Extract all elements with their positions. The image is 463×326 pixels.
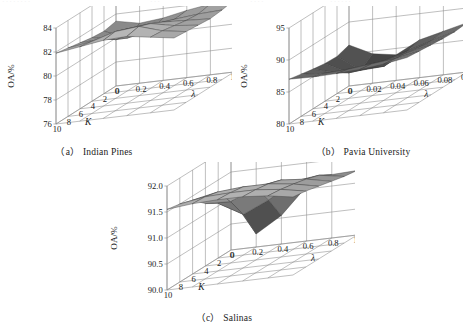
surface-patch — [431, 23, 463, 41]
surface-patch — [167, 197, 205, 210]
z-tick-label: 84 — [43, 23, 52, 33]
floor-gridline — [68, 102, 186, 116]
k-tick-label: 10 — [286, 124, 295, 134]
wall-gridline — [116, 48, 232, 62]
lambda-tick-label: 1.0 — [353, 235, 355, 245]
z-tick-label: 80 — [276, 119, 285, 129]
k-axis-title: K — [317, 117, 325, 127]
z-tick-label: 85 — [276, 87, 285, 97]
plot-canvas-pavia-university: 80859095108642000.020.040.060.080.10KλOA… — [231, 6, 463, 158]
floor-gridline — [301, 102, 419, 116]
surface-mesh — [56, 6, 232, 53]
z-tick-label: 91.0 — [148, 233, 163, 243]
lambda-tick-label: 0.6 — [183, 78, 194, 88]
surface-mesh — [167, 171, 355, 234]
k-tick-label: 6 — [312, 109, 317, 119]
floor-gridline — [180, 267, 306, 282]
lambda-tick-label: 0.8 — [328, 238, 339, 248]
wall-gridline — [167, 162, 231, 186]
lambda-tick-label: 0.6 — [303, 241, 314, 251]
k-tick-label: 2 — [103, 94, 107, 104]
k-tick-label: 4 — [91, 101, 96, 111]
k-tick-label: 4 — [204, 266, 209, 276]
surface-plot-pavia-university: 80859095108642000.020.040.060.080.10KλOA… — [231, 6, 463, 158]
floor-gridline — [80, 95, 198, 109]
floor-gridline — [193, 259, 319, 274]
oa-axis-title: OA/% — [6, 64, 16, 88]
z-tick-label: 95 — [276, 23, 285, 33]
z-tick-label: 90.5 — [148, 259, 163, 269]
z-tick-label: 76 — [43, 119, 52, 129]
z-tick-label: 90 — [276, 55, 285, 65]
k-tick-label: 8 — [179, 282, 183, 292]
lambda-tick-label: 0 — [348, 86, 352, 96]
lambda-tick-label: 0.02 — [367, 84, 382, 94]
wall-gridline — [167, 224, 231, 264]
z-tick-label: 91.5 — [148, 207, 163, 217]
z-tick-label: 78 — [43, 95, 52, 105]
wall-gridline — [349, 8, 463, 22]
floor-gridline — [313, 83, 373, 121]
lambda-tick-label: 0.08 — [437, 75, 452, 85]
lambda-axis-title: λ — [423, 89, 428, 99]
floor-gridline — [167, 275, 293, 290]
floor-gridline — [289, 110, 407, 124]
wall-gridline — [231, 162, 355, 172]
lambda-tick-label: 0.4 — [159, 81, 170, 91]
oa-axis-title: OA/% — [239, 64, 249, 88]
caption-salinas: （c） Salinas — [99, 310, 349, 324]
floor-gridline — [313, 95, 431, 109]
z-tick-label: 82 — [43, 47, 52, 57]
k-axis-title: K — [84, 117, 92, 127]
surface-plot-salinas: 90.090.591.091.592.0108642000.20.40.60.8… — [105, 162, 355, 326]
lambda-tick-label: 0.2 — [136, 84, 147, 94]
z-tick-label: 90.0 — [148, 285, 163, 295]
z-tick-label: 92.0 — [148, 181, 163, 191]
k-tick-label: 2 — [336, 94, 340, 104]
caption-pavia-university: （b） Pavia University — [247, 144, 463, 158]
floor-gridline — [103, 80, 163, 118]
k-tick-label: 10 — [53, 124, 62, 134]
caption-indian-pines: （a） Indian Pines — [0, 144, 210, 158]
k-tick-label: 2 — [217, 258, 221, 268]
k-tick-label: 10 — [164, 290, 173, 300]
plot-canvas-indian-pines: 7678808284108642000.20.40.60.81.0KλOA/% — [0, 6, 232, 158]
floor-gridline — [217, 244, 281, 284]
k-tick-label: 6 — [191, 274, 196, 284]
z-tick-label: 80 — [43, 71, 52, 81]
lambda-tick-label: 0.8 — [207, 75, 218, 85]
lambda-axis-title: λ — [190, 89, 195, 99]
k-tick-label: 4 — [324, 101, 329, 111]
k-axis-title: K — [197, 282, 205, 292]
floor-gridline — [80, 83, 140, 121]
lambda-tick-label: 0.06 — [414, 78, 430, 88]
surface-plot-indian-pines: 7678808284108642000.20.40.60.81.0KλOA/% … — [0, 6, 232, 158]
surface-patch — [56, 42, 92, 54]
k-tick-label: 8 — [300, 117, 304, 127]
lambda-tick-label: 0.4 — [278, 244, 289, 254]
axis-labels: 7678808284108642000.20.40.60.81.0KλOA/% — [6, 23, 232, 134]
oa-axis-title: OA/% — [109, 226, 119, 250]
lambda-tick-label: 0 — [115, 86, 119, 96]
plot-canvas-salinas: 90.090.591.091.592.0108642000.20.40.60.8… — [105, 162, 355, 312]
lambda-tick-label: 0.04 — [390, 81, 406, 91]
wall-gridline — [289, 6, 349, 28]
lambda-axis-title: λ — [310, 253, 315, 263]
k-tick-label: 8 — [67, 117, 71, 127]
lambda-tick-label: 0.2 — [252, 247, 263, 257]
lambda-tick-label: 0 — [230, 250, 234, 260]
floor-gridline — [56, 110, 174, 124]
wall-gridline — [56, 6, 116, 28]
k-tick-label: 6 — [79, 109, 84, 119]
